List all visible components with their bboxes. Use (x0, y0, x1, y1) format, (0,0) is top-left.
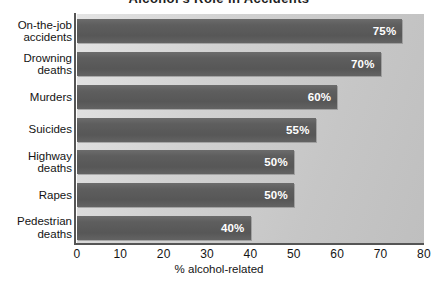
bar (77, 150, 294, 174)
x-tick-label: 20 (157, 247, 171, 261)
bar-value-label: 70% (351, 52, 375, 76)
bar-value-label: 75% (373, 19, 397, 43)
x-tick-label: 0 (74, 247, 81, 261)
bar-row: 40% (77, 216, 251, 240)
y-axis-line (74, 13, 76, 244)
x-tick-label: 30 (200, 247, 214, 261)
x-axis-title: % alcohol-related (0, 263, 438, 275)
bar (77, 85, 337, 109)
bar-value-label: 40% (221, 216, 245, 240)
x-tick-label: 50 (287, 247, 301, 261)
bar (77, 52, 381, 76)
bar (77, 183, 294, 207)
chart-title: Alcohol's Role in Accidents (0, 0, 438, 3)
x-tick-label: 70 (374, 247, 388, 261)
bar (77, 118, 316, 142)
x-axis-tick-labels: 01020304050607080 (0, 247, 438, 263)
category-label: On-the-job accidents (0, 19, 72, 44)
bar-row: 50% (77, 183, 294, 207)
category-label: Pedestrian deaths (0, 215, 72, 240)
category-label: Drowning deaths (0, 52, 72, 77)
bar-row: 60% (77, 85, 337, 109)
bar-row: 75% (77, 19, 402, 43)
category-label: Murders (0, 91, 72, 104)
bar-value-label: 50% (264, 183, 288, 207)
bar-value-label: 55% (286, 118, 310, 142)
x-tick-label: 80 (417, 247, 431, 261)
category-label: Highway deaths (0, 150, 72, 175)
bar-row: 70% (77, 52, 381, 76)
bar-value-label: 60% (308, 85, 332, 109)
x-tick-label: 60 (330, 247, 344, 261)
category-label: Rapes (0, 189, 72, 202)
category-label: Suicides (0, 123, 72, 136)
bar (77, 19, 402, 43)
x-tick-label: 10 (113, 247, 127, 261)
bar-value-label: 50% (264, 150, 288, 174)
x-axis-line (74, 243, 424, 245)
x-tick-label: 40 (244, 247, 258, 261)
bar-row: 55% (77, 118, 316, 142)
bar-row: 50% (77, 150, 294, 174)
category-axis-labels: On-the-job accidentsDrowning deathsMurde… (0, 14, 72, 243)
bar-chart-figure: Alcohol's Role in Accidents On-the-job a… (0, 0, 438, 281)
